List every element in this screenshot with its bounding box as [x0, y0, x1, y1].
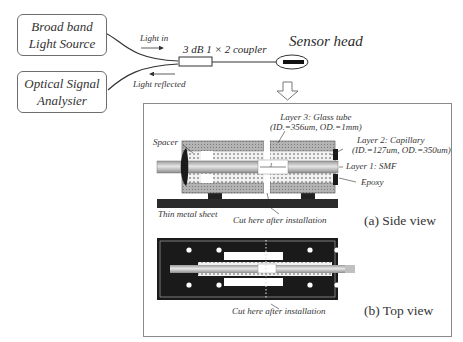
broadband-light-source-box: Broad band Light Source [17, 14, 107, 56]
side-view-caption: (a) Side view [364, 213, 436, 229]
light-in-label: Light in [140, 33, 168, 43]
smf-fiber-right [283, 161, 338, 173]
light-reflected-label: Light reflected [133, 79, 185, 89]
coupler-label: 3 dB 1 × 2 coupler [183, 43, 267, 55]
layer3-label: Layer 3: Glass tube (ID.=356um, OD.=1mm) [270, 112, 362, 132]
top-cut-label: Cut here after installation [232, 306, 325, 316]
epoxy-top [333, 149, 338, 160]
analyser-line2: Analysier [37, 92, 87, 109]
layer2-line1: Layer 2: Capillary [352, 135, 451, 145]
layer3-line2: (ID.=356um, OD.=1mm) [270, 122, 362, 132]
layer2-label: Layer 2: Capillary (ID.=127um, OD.=350um… [352, 135, 451, 155]
layer1-label: Layer 1: SMF [346, 161, 397, 171]
thin-metal-sheet-label: Thin metal sheet [158, 209, 218, 219]
layer2-line2: (ID.=127um, OD.=350um) [352, 145, 451, 155]
smf-fiber-left [157, 161, 263, 173]
down-arrow-icon [277, 82, 298, 100]
side-cut-label: Cut here after installation [233, 215, 326, 225]
epoxy-bottom [333, 174, 338, 185]
analyser-line1: Optical Signal [24, 75, 99, 92]
top-view-caption: (b) Top view [364, 303, 433, 319]
source-line2: Light Source [29, 35, 95, 52]
gap-length-symbol: l [270, 161, 272, 169]
thin-metal-sheet [157, 199, 338, 208]
source-line1: Broad band [31, 18, 92, 35]
layer3-line1: Layer 3: Glass tube [270, 112, 362, 122]
sensor-head-label: Sensor head [289, 33, 363, 50]
epoxy-label: Epoxy [361, 177, 384, 187]
coupler [179, 57, 212, 66]
spacer-label: Spacer [153, 137, 178, 147]
optical-signal-analyser-box: Optical Signal Analysier [17, 71, 107, 113]
